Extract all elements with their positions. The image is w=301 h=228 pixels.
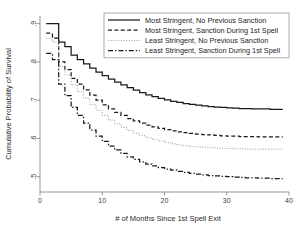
series-line-3 [46, 53, 283, 178]
legend-label-1: Most Stringent, Sanction During 1st Spel… [145, 26, 278, 35]
legend-label-2: Least Stringent, No Previous Sanction [145, 36, 268, 45]
x-tick-label: 40 [285, 197, 293, 204]
legend-label-3: Least Stringent, Sanction During 1st Spe… [145, 46, 280, 55]
x-tick-label: 10 [98, 197, 106, 204]
y-tick-label: .6 [30, 135, 37, 141]
x-tick-label: 30 [223, 197, 231, 204]
x-tick-label: 20 [161, 197, 169, 204]
chart-canvas: 010203040.5.6.7.8.9 Most Stringent, No P… [0, 0, 301, 228]
y-axis-title: Cumulative Probability of Survival [4, 48, 13, 160]
x-axis-title: # of Months Since 1st Spell Exit [115, 214, 221, 223]
y-tick-label: .7 [30, 97, 37, 103]
legend-label-0: Most Stringent, No Previous Sanction [145, 16, 266, 25]
y-tick-label: .8 [30, 59, 37, 65]
y-tick-label: .5 [30, 174, 37, 180]
y-tick-label: .9 [30, 21, 37, 27]
chart-legend: Most Stringent, No Previous SanctionMost… [104, 13, 289, 58]
x-tick-label: 0 [38, 197, 42, 204]
survival-curve-figure: 010203040.5.6.7.8.9 Most Stringent, No P… [0, 0, 301, 228]
